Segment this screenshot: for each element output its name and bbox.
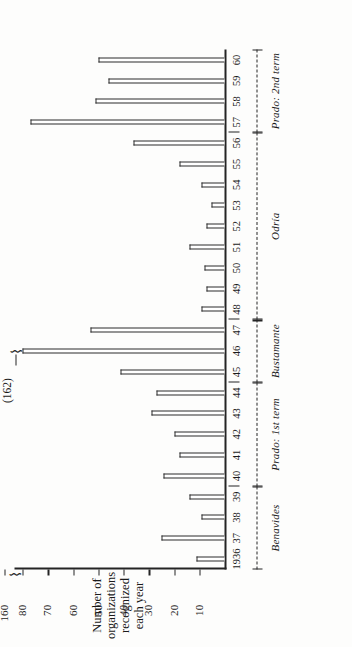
period-separator-tick-57 xyxy=(228,131,239,132)
x-label-47: 47 xyxy=(230,323,241,336)
bar-56 xyxy=(133,140,224,145)
bar-50 xyxy=(204,265,224,270)
bar-37 xyxy=(161,535,224,540)
x-label-52: 52 xyxy=(230,219,241,232)
figure-page: 1020304050607080160⌇ 1936373839404142434… xyxy=(0,0,352,647)
x-label-44: 44 xyxy=(230,386,241,399)
x-label-43: 43 xyxy=(230,407,241,420)
y-tick-label-80: 80 xyxy=(16,604,27,615)
y-tick-160 xyxy=(4,569,5,575)
bar-49 xyxy=(206,286,224,291)
bar-43 xyxy=(151,411,224,416)
y-axis-break-glyph: ⌇ xyxy=(10,570,20,577)
x-label-45: 45 xyxy=(230,365,241,378)
x-label-57: 57 xyxy=(230,115,241,128)
y-tick-label-text: 20 xyxy=(168,604,179,615)
y-tick-60 xyxy=(73,569,74,575)
y-tick-label-160: 160 xyxy=(0,604,9,621)
x-label-56: 56 xyxy=(230,136,241,149)
bar-46 xyxy=(22,348,224,353)
y-tick-label-text: 10 xyxy=(193,604,204,615)
x-label-38: 38 xyxy=(230,511,241,524)
period-separator-tick-45 xyxy=(228,381,239,382)
bar-39 xyxy=(189,494,224,499)
y-tick-label-70: 70 xyxy=(41,604,52,615)
period-end-tick xyxy=(252,131,262,132)
bar-42 xyxy=(174,431,225,436)
bar-40 xyxy=(163,473,224,478)
period-end-tick xyxy=(252,318,262,319)
period-rule-prado-1st-term xyxy=(256,382,258,486)
period-rule-benavides xyxy=(256,486,258,569)
bar-44 xyxy=(156,390,224,395)
x-label-55: 55 xyxy=(230,157,241,170)
period-label-bustamante: Bustamante xyxy=(268,319,280,381)
period-end-tick xyxy=(252,49,262,50)
x-label-46: 46 xyxy=(230,344,241,357)
y-tick-70 xyxy=(47,569,48,575)
bar-60 xyxy=(98,57,224,62)
y-tick-label-text: 80 xyxy=(16,604,27,615)
period-label-prado-1st-term: Prado: 1st term xyxy=(268,382,280,486)
period-bands: BenavidesPrado: 1st termBustamanteOdríaP… xyxy=(256,49,314,569)
period-separator-tick-40 xyxy=(228,485,239,486)
bar-45 xyxy=(120,369,224,374)
x-label-59: 59 xyxy=(230,74,241,87)
y-tick-label-text: 70 xyxy=(41,604,52,615)
period-end-tick xyxy=(252,381,262,382)
bar-58 xyxy=(95,99,224,104)
bar-54 xyxy=(201,182,224,187)
bar-59 xyxy=(108,78,224,83)
period-end-tick xyxy=(252,485,262,486)
bar-55 xyxy=(179,161,224,166)
period-label-prado-2nd-term: Prado: 2nd term xyxy=(268,49,280,132)
y-tick-label-text: 60 xyxy=(67,604,78,615)
period-separator-tick-48 xyxy=(228,318,239,319)
bar-41 xyxy=(179,452,224,457)
bar-57 xyxy=(30,119,224,124)
bar-chart-figure: 1020304050607080160⌇ 1936373839404142434… xyxy=(0,0,352,647)
x-label-60: 60 xyxy=(230,53,241,66)
bar-47 xyxy=(90,327,224,332)
x-label-1936: 1936 xyxy=(230,547,241,571)
x-label-42: 42 xyxy=(230,427,241,440)
x-label-51: 51 xyxy=(230,240,241,253)
y-tick-10 xyxy=(199,569,200,575)
bar-38 xyxy=(201,515,224,520)
x-label-58: 58 xyxy=(230,95,241,108)
x-label-41: 41 xyxy=(230,448,241,461)
bars-area xyxy=(14,49,224,569)
x-label-49: 49 xyxy=(230,282,241,295)
period-rule-odr-a xyxy=(256,132,258,319)
period-label-benavides: Benavides xyxy=(268,486,280,569)
x-label-50: 50 xyxy=(230,261,241,274)
period-rule-bustamante xyxy=(256,319,258,381)
period-label-odr-a: Odría xyxy=(268,132,280,319)
y-tick-label-20: 20 xyxy=(168,604,179,615)
bar-1936 xyxy=(196,556,224,561)
bar-48 xyxy=(201,307,224,312)
bar-break-tick xyxy=(15,354,16,365)
y-tick-label-text: 160 xyxy=(0,604,9,621)
period-end-tick xyxy=(252,568,262,569)
bar-53 xyxy=(211,203,224,208)
y-tick-label-10: 10 xyxy=(193,604,204,615)
bar-52 xyxy=(206,223,224,228)
bar-51 xyxy=(189,244,224,249)
out-of-range-annotation: (162) xyxy=(0,378,12,403)
y-tick-30 xyxy=(148,569,149,575)
y-axis-title: Number of organizations recognized each … xyxy=(89,557,145,647)
period-rule-prado-2nd-term xyxy=(256,49,258,132)
x-label-54: 54 xyxy=(230,178,241,191)
x-label-39: 39 xyxy=(230,490,241,503)
rotated-figure-wrapper: 1020304050607080160⌇ 1936373839404142434… xyxy=(0,0,352,647)
x-label-40: 40 xyxy=(230,469,241,482)
x-label-48: 48 xyxy=(230,303,241,316)
x-label-53: 53 xyxy=(230,199,241,212)
y-tick-label-60: 60 xyxy=(67,604,78,615)
y-tick-20 xyxy=(174,569,175,575)
x-label-37: 37 xyxy=(230,531,241,544)
